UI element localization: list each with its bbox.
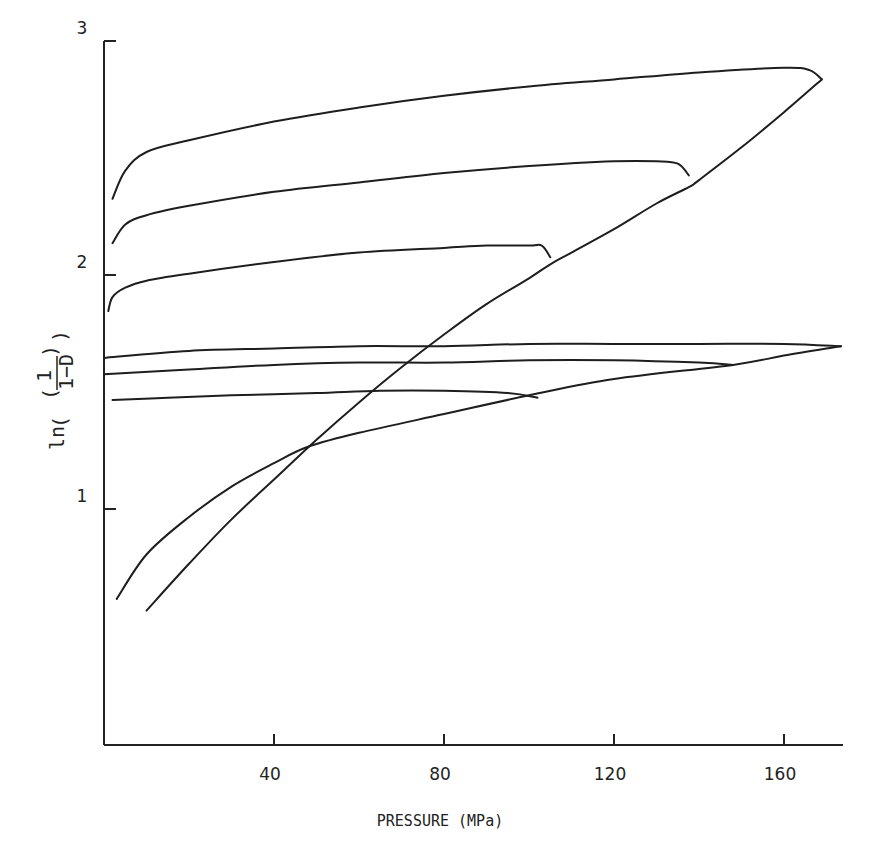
y-axis-label-paren-right: ) [48,330,72,342]
data-series-3 [108,245,550,311]
x-ticks: 4080120160 [259,734,796,784]
y-axis-label-denominator: 1−D [54,354,78,390]
x-tick-label: 80 [429,764,451,784]
y-tick-label: 2 [77,252,88,272]
y-axis-label: ln ( ( 1 1−D ) ) [32,330,78,450]
data-series-5 [104,344,841,358]
hysteresis-chart: 4080120160 123 PRESSURE (MPa) ln ( ( 1 1… [0,0,896,858]
y-axis-label-ln: ln [45,426,69,450]
x-tick-label: 40 [259,764,281,784]
x-tick-label: 160 [764,764,796,784]
data-series-1 [113,68,822,199]
y-axis-label-paren-left: ( [48,416,72,428]
data-series-6 [104,360,733,374]
x-tick-label: 120 [594,764,626,784]
y-axis-label-numerator: 1 [32,370,56,382]
x-axis-label: PRESSURE (MPa) [377,812,503,830]
data-series-4 [117,346,841,599]
data-series-7 [113,390,538,400]
y-tick-label: 3 [77,18,88,38]
y-tick-label: 1 [77,486,88,506]
axes [104,41,843,745]
y-ticks: 123 [77,18,116,509]
y-axis-label-inner-paren-right: ) [38,345,62,357]
data-series-2 [113,161,689,243]
curves [104,68,841,611]
